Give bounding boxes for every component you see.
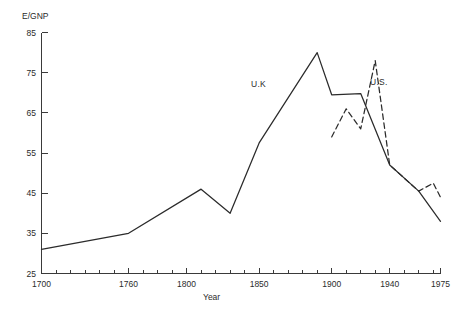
x-tick-label: 1700 — [22, 279, 62, 289]
y-tick-label: 85 — [8, 28, 36, 38]
x-axis-ticks — [42, 268, 441, 274]
x-tick-label: 1760 — [109, 279, 149, 289]
x-tick-label: 1975 — [421, 279, 461, 289]
chart-container: 25354555657585 1700176018001850190019401… — [0, 0, 465, 318]
chart-axes — [42, 33, 441, 274]
y-tick-label: 55 — [8, 148, 36, 158]
y-tick-label: 65 — [8, 108, 36, 118]
y-axis-ticks — [42, 33, 48, 274]
y-tick-label: 45 — [8, 188, 36, 198]
x-tick-label: 1850 — [239, 279, 279, 289]
y-tick-label: 75 — [8, 68, 36, 78]
x-tick-label: 1900 — [312, 279, 352, 289]
series-label-us: U.S. — [370, 77, 388, 87]
chart-plot-area — [0, 0, 465, 318]
y-axis-title: E/GNP — [22, 11, 48, 21]
y-tick-label: 35 — [8, 228, 36, 238]
x-tick-label: 1940 — [370, 279, 410, 289]
axis-lines — [42, 33, 441, 274]
y-tick-label: 25 — [8, 269, 36, 279]
x-axis-title: Year — [203, 292, 220, 302]
x-tick-label: 1800 — [167, 279, 207, 289]
series-label-uk: U.K — [251, 79, 266, 89]
